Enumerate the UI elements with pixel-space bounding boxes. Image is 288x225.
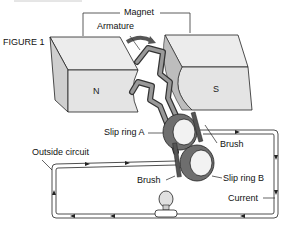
slip-ring-b-label: Slip ring B [223, 174, 264, 183]
light-bulb-icon [155, 191, 177, 217]
brush-lower-label: Brush [137, 176, 161, 185]
slip-ring-a [163, 112, 203, 150]
south-pole-magnet [163, 35, 252, 110]
north-pole-label: N [93, 87, 100, 96]
slip-ring-a-label: Slip ring A [104, 128, 145, 137]
generator-diagram [0, 0, 288, 225]
south-pole-label: S [213, 85, 219, 94]
current-label: Current [228, 194, 258, 203]
magnet-label: Magnet [124, 8, 154, 17]
figure-label: FIGURE 1 [3, 38, 45, 47]
brush-upper-label: Brush [220, 140, 244, 149]
north-pole-magnet [50, 37, 138, 112]
armature-label: Armature [97, 22, 134, 31]
outside-circuit-label: Outside circuit [32, 148, 89, 157]
